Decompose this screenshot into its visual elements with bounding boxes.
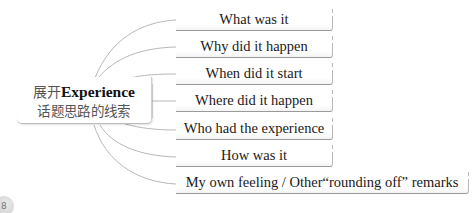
branch-why-did-it-happen[interactable]: Why did it happen [176,36,333,58]
center-title-line: 展开Experience [17,83,151,101]
connector-feeling [94,125,176,184]
center-subtitle: 话题思路的线索 [17,102,151,120]
branch-when-did-it-start[interactable]: When did it start [176,63,333,85]
branch-who-had-the-experience[interactable]: Who had the experience [176,118,333,140]
page-number-badge: 8 [0,196,14,213]
branch-what-was-it[interactable]: What was it [176,9,333,31]
branch-own-feeling-remarks[interactable]: My own feeling / Other“rounding off” rem… [176,172,469,194]
branch-how-was-it[interactable]: How was it [176,145,333,167]
connector-who [125,124,176,130]
center-title-cn: 展开 [33,84,61,100]
branch-where-did-it-happen[interactable]: Where did it happen [176,90,333,112]
connector-how [100,125,176,157]
mind-map-canvas: 展开Experience 话题思路的线索 What was it Why did… [0,0,474,213]
connector-what [95,20,176,78]
page-number-label: 8 [1,201,7,211]
connector-where [152,84,176,118]
center-topic-node[interactable]: 展开Experience 话题思路的线索 [17,77,152,124]
connector-why [98,47,176,78]
center-title-en: Experience [61,83,135,100]
